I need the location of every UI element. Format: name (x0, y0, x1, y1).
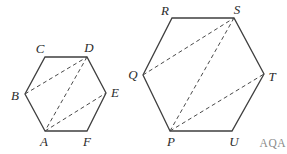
diagonal-sp (170, 18, 234, 131)
aqa-watermark: AQA (260, 137, 287, 149)
diagram-svg: ABCDEFPQRSTUAQA (0, 0, 287, 154)
vertex-label-a: A (39, 134, 48, 149)
hexagon-abcdef: ABCDEF (11, 40, 119, 149)
vertex-label-d: D (83, 40, 94, 55)
vertex-label-s: S (234, 2, 241, 17)
geometry-diagram: ABCDEFPQRSTUAQA (0, 0, 287, 154)
vertex-label-e: E (110, 85, 119, 100)
hexagon-pqrstu-outline (143, 18, 264, 131)
vertex-label-p: P (166, 134, 175, 149)
vertex-label-r: R (160, 3, 169, 18)
vertex-label-c: C (36, 41, 45, 56)
vertex-label-q: Q (128, 67, 138, 82)
vertex-label-t: T (268, 69, 276, 84)
hexagon-pqrstu: PQRSTU (128, 2, 276, 149)
diagonal-qs (143, 18, 234, 75)
vertex-label-u: U (229, 134, 240, 149)
diagonal-pt (170, 74, 264, 131)
vertex-label-f: F (82, 134, 92, 149)
diagonal-da (45, 57, 87, 131)
vertex-label-b: B (11, 88, 19, 103)
